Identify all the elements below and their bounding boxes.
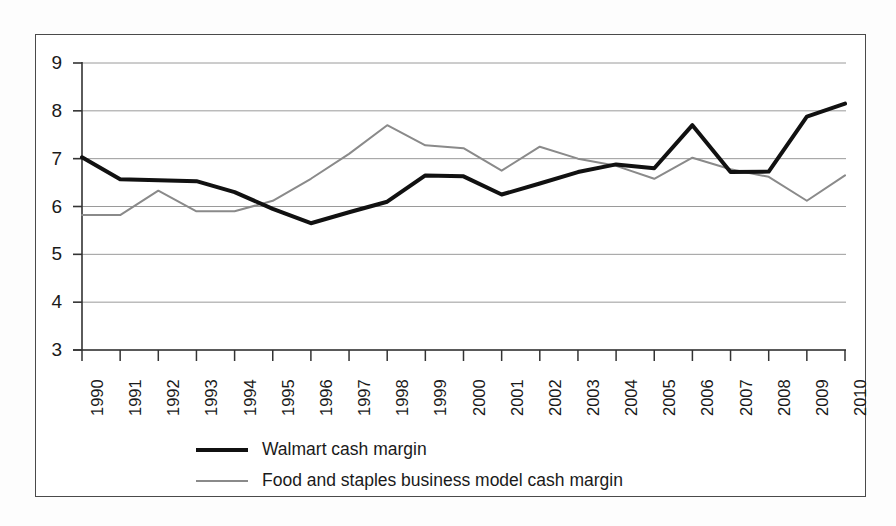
y-axis-tick-label: 7 <box>34 149 62 168</box>
x-axis-tick-label: 2005 <box>661 379 678 416</box>
x-axis-tick-label: 1994 <box>242 379 259 416</box>
x-axis-tick-label: 1999 <box>432 379 449 416</box>
x-axis-tick-label: 1998 <box>394 379 411 416</box>
legend-item-label: Walmart cash margin <box>262 441 427 459</box>
x-axis-tick-label: 2008 <box>776 379 793 416</box>
legend-line-swatch-icon <box>196 480 248 482</box>
x-axis-tick-label: 2010 <box>852 379 869 416</box>
x-axis-tick-label: 2004 <box>623 379 640 416</box>
x-axis-tick-label: 1993 <box>203 379 220 416</box>
x-axis-tick-label: 2006 <box>699 379 716 416</box>
x-axis-tick-label: 2000 <box>471 379 488 416</box>
x-axis-tick-label: 1990 <box>89 379 106 416</box>
y-axis-tick-label: 6 <box>34 197 62 216</box>
chart-figure: 9876543 19901991199219931994199519961997… <box>0 0 896 526</box>
x-axis-tick-label: 1991 <box>127 379 144 416</box>
x-axis-tick-label: 2009 <box>814 379 831 416</box>
legend-line-swatch-icon <box>196 448 248 452</box>
x-axis-tick-label: 2002 <box>547 379 564 416</box>
y-axis-tick-label: 8 <box>34 101 62 120</box>
chart-frame <box>35 34 866 497</box>
x-axis-tick-label: 1995 <box>280 379 297 416</box>
x-axis-tick-label: 1996 <box>318 379 335 416</box>
x-axis-tick-label: 2007 <box>738 379 755 416</box>
legend-item-food-and-staples-cash-margin: Food and staples business model cash mar… <box>196 465 796 496</box>
legend-item-walmart-cash-margin: Walmart cash margin <box>196 434 796 465</box>
x-axis-tick-label: 2003 <box>585 379 602 416</box>
y-axis-tick-label: 9 <box>34 53 62 72</box>
x-axis-tick-label: 1997 <box>356 379 373 416</box>
y-axis-tick-label: 4 <box>34 292 62 311</box>
x-axis-tick-label: 1992 <box>165 379 182 416</box>
legend-item-label: Food and staples business model cash mar… <box>262 472 623 490</box>
x-axis-tick-label: 2001 <box>509 379 526 416</box>
y-axis-tick-label: 3 <box>34 340 62 359</box>
chart-legend: Walmart cash margin Food and staples bus… <box>196 434 796 496</box>
y-axis-tick-label: 5 <box>34 244 62 263</box>
